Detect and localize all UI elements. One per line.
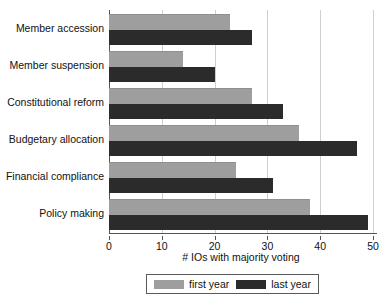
- bar-first-year: [109, 14, 230, 30]
- bar-last-year: [109, 30, 252, 45]
- legend-swatch-icon: [154, 280, 184, 289]
- bar-last-year: [109, 215, 368, 230]
- bar-last-year: [109, 141, 357, 156]
- legend-item-first-year: first year: [154, 278, 229, 290]
- category-label: Financial compliance: [1, 170, 104, 182]
- bar-group: [109, 121, 373, 158]
- bar-last-year: [109, 67, 215, 82]
- bar-group: [109, 195, 373, 232]
- bar-last-year: [109, 178, 273, 193]
- y-axis-labels: Member accession Member suspension Const…: [0, 10, 104, 234]
- x-axis-title: # IOs with majority voting: [109, 251, 373, 263]
- bar-first-year: [109, 51, 183, 67]
- bar-chart: Member accession Member suspension Const…: [0, 0, 387, 304]
- category-label: Member suspension: [1, 59, 104, 71]
- category-label: Member accession: [1, 22, 104, 34]
- chart-legend: first year last year: [146, 274, 319, 294]
- category-label: Constitutional reform: [1, 96, 104, 108]
- category-label: Budgetary allocation: [1, 133, 104, 145]
- bar-group: [109, 158, 373, 195]
- category-label: Policy making: [1, 207, 104, 219]
- bar-first-year: [109, 88, 252, 104]
- bar-group: [109, 84, 373, 121]
- bar-group: [109, 10, 373, 47]
- legend-label: first year: [189, 278, 229, 290]
- gridline-50: [373, 10, 374, 234]
- x-axis-ticks: 0 10 20 30 40 50: [0, 236, 387, 252]
- legend-item-last-year: last year: [236, 278, 311, 290]
- plot-area: [109, 10, 373, 234]
- bar-group: [109, 47, 373, 84]
- bar-first-year: [109, 125, 299, 141]
- bar-last-year: [109, 104, 283, 119]
- legend-swatch-icon: [236, 280, 266, 289]
- bar-first-year: [109, 162, 236, 178]
- bar-first-year: [109, 199, 310, 215]
- legend-label: last year: [271, 278, 311, 290]
- x-axis-line: [109, 233, 377, 234]
